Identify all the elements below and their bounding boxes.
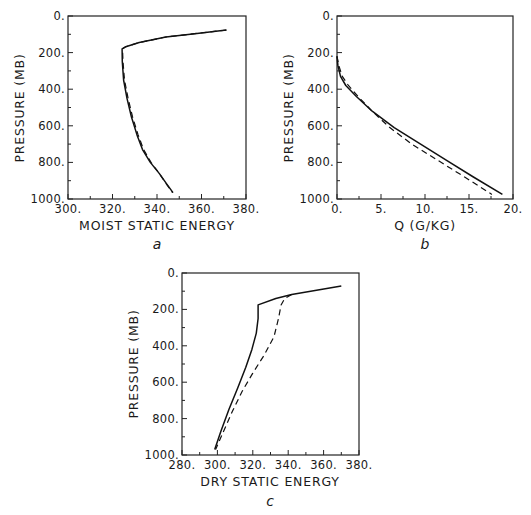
x-tick-label: 380. [233,202,260,216]
x-tick-label: 20. [503,202,522,216]
panel-label-a: a [153,236,162,252]
x-tick-label: 300. [204,458,231,472]
series-solid-a [122,30,226,193]
panel-c: 0.200.400.600.800.1000. 280.300.320.340.… [126,266,372,509]
y-tick-label: 400. [38,82,65,96]
x-axis-title-b: Q (G/KG) [394,218,456,233]
y-tick-label: 200. [307,46,334,60]
x-tick-label: 380. [346,458,373,472]
y-axis-title-b: PRESSURE (MB) [281,53,296,162]
y-tick-label: 400. [307,82,334,96]
x-tick-label: 360. [188,202,215,216]
x-ticks-b: 0.5.10.15.20. [331,194,522,216]
x-tick-label: 340. [144,202,171,216]
panel-a: 0.200.400.600.800.1000. 300.320.340.360.… [12,9,259,252]
x-tick-label: 320. [99,202,126,216]
x-tick-label: 320. [239,458,266,472]
x-axis-title-a: MOIST STATIC ENERGY [79,218,235,233]
y-tick-label: 600. [307,119,334,133]
series-solid-b [337,56,502,194]
x-tick-label: 0. [331,202,343,216]
x-tick-label: 340. [275,458,302,472]
x-ticks-a: 300.320.340.360.380. [55,194,260,216]
y-tick-label: 400. [152,339,179,353]
y-tick-label: 800. [152,412,179,426]
x-axis-title-c: DRY STATIC ENERGY [200,474,339,489]
y-axis-title-c: PRESSURE (MB) [126,309,141,418]
y-tick-label: 0. [167,266,179,280]
y-tick-label: 600. [152,375,179,389]
y-tick-label: 600. [38,119,65,133]
x-tick-label: 360. [310,458,337,472]
x-tick-label: 15. [459,202,478,216]
y-tick-label: 0. [53,9,65,23]
series-dashed-a [123,30,227,193]
y-axis-title-a: PRESSURE (MB) [12,53,27,162]
series-solid-c [215,286,342,449]
y-ticks-a: 0.200.400.600.800.1000. [31,9,73,206]
y-tick-label: 200. [38,46,65,60]
x-tick-label: 5. [375,202,387,216]
panel-label-b: b [421,236,430,252]
panel-b: 0.200.400.600.800.1000. 0.5.10.15.20. Q … [281,9,523,252]
x-ticks-c: 280.300.320.340.360.380. [169,450,373,472]
y-ticks-c: 0.200.400.600.800.1000. [145,266,187,462]
panel-label-c: c [266,493,274,509]
x-tick-label: 300. [55,202,82,216]
y-tick-label: 1000. [300,192,334,206]
y-tick-label: 800. [38,155,65,169]
series-dashed-c [216,295,292,450]
y-tick-label: 0. [322,9,334,23]
x-tick-label: 280. [169,458,196,472]
figure: 0.200.400.600.800.1000. 300.320.340.360.… [0,0,531,515]
x-tick-label: 10. [415,202,434,216]
y-tick-label: 200. [152,302,179,316]
y-ticks-b: 0.200.400.600.800.1000. [300,9,342,206]
plot-frame-b [337,16,513,199]
y-tick-label: 800. [307,155,334,169]
